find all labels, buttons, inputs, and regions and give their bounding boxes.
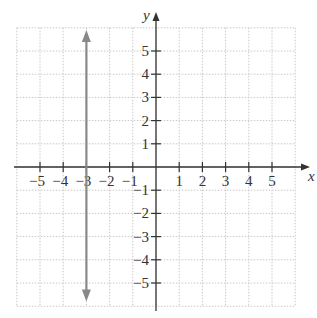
y-tick-label: 1 (142, 136, 150, 152)
y-tick-label: 3 (142, 89, 150, 105)
y-tick-label: 2 (142, 113, 150, 129)
x-tick-label: −4 (52, 173, 68, 189)
coordinate-plane: −5−4−3−2−11234554321−1−2−3−4−5 x y (0, 0, 317, 318)
y-tick-label: −5 (133, 275, 149, 291)
y-axis-label: y (141, 7, 150, 23)
x-tick-label: 3 (222, 173, 230, 189)
axes (14, 12, 310, 311)
series (82, 30, 91, 301)
x-tick-label: 4 (245, 173, 253, 189)
y-tick-label: −2 (133, 205, 149, 221)
x-tick-label: −3 (75, 173, 91, 189)
y-tick-label: −4 (133, 252, 149, 268)
y-tick-label: −1 (133, 182, 149, 198)
x-tick-label: 1 (175, 173, 183, 189)
line-arrow-down-icon (82, 290, 91, 302)
y-axis-arrow-icon (153, 12, 160, 21)
x-tick-label: 2 (199, 173, 207, 189)
x-axis-label: x (307, 168, 315, 184)
x-tick-label: −5 (29, 173, 45, 189)
line-arrow-up-icon (82, 30, 91, 42)
y-tick-label: −3 (133, 229, 149, 245)
x-tick-label: −2 (99, 173, 115, 189)
y-tick-label: 4 (142, 66, 150, 82)
y-tick-label: 5 (142, 43, 150, 59)
x-tick-label: 5 (268, 173, 276, 189)
